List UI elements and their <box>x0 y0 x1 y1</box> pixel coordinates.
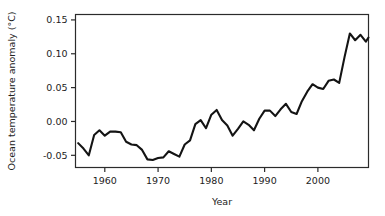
y-tick-label: 0.05 <box>46 82 67 93</box>
chart-canvas: -0.050.000.050.100.15 196019701980199020… <box>0 0 385 216</box>
x-tick-label: 2000 <box>306 175 330 186</box>
x-axis-title: Year <box>211 196 232 207</box>
y-tick-label: -0.05 <box>43 150 68 161</box>
x-tick-label: 1960 <box>93 175 117 186</box>
y-tick-label: 0.15 <box>46 14 67 25</box>
x-tick-label: 1970 <box>146 175 170 186</box>
y-axis-title: Ocean temperature anomaly (°C) <box>6 12 17 171</box>
ocean-temperature-anomaly-chart: -0.050.000.050.100.15 196019701980199020… <box>0 0 385 216</box>
y-tick-label: 0.00 <box>46 116 67 127</box>
x-tick-label: 1980 <box>199 175 223 186</box>
y-tick-label: 0.10 <box>46 48 67 59</box>
x-tick-label: 1990 <box>253 175 277 186</box>
